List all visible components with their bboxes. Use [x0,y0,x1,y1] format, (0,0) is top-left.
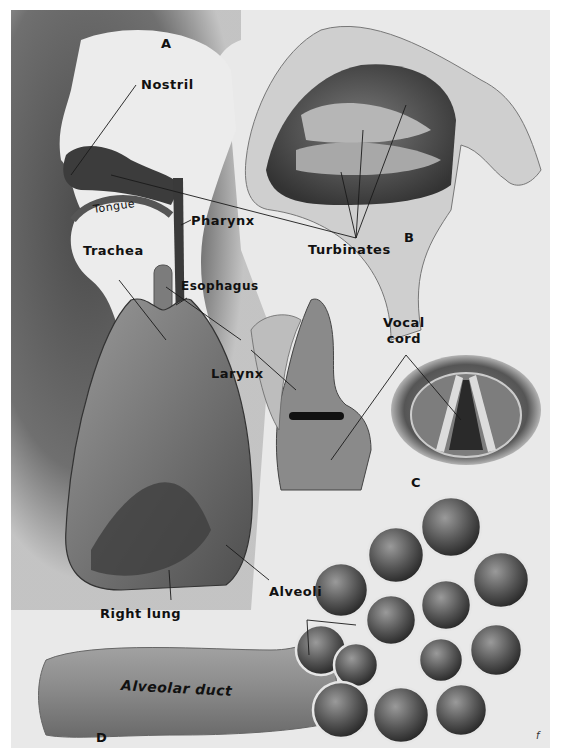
label-turbinates: Turbinates [308,242,391,257]
anatomy-plate: A B C D Nostril Tongue Pharynx Trachea E… [11,10,550,748]
label-vocal-cord-line2: cord [383,331,425,347]
label-vocal-cord-line1: Vocal [383,315,425,331]
panel-label-a: A [161,36,171,51]
vocal-cord-glottis-view [391,355,541,465]
label-larynx: Larynx [211,366,264,381]
label-esophagus: Esophagus [181,279,259,293]
label-vocal-cord: Vocal cord [383,315,425,347]
label-pharynx: Pharynx [191,213,255,228]
label-alveoli: Alveoli [269,584,322,599]
panel-c-larynx-section [251,299,371,490]
alveoli-cluster [296,497,529,743]
panel-label-d: D [96,730,107,745]
anatomy-illustration [11,10,550,748]
label-right-lung: Right lung [100,606,181,621]
label-trachea: Trachea [83,243,144,258]
label-nostril: Nostril [141,77,194,92]
panel-label-b: B [404,230,414,245]
panel-label-c: C [411,475,421,490]
artist-signature: f [536,730,540,741]
panel-b-nasal-cavity [245,26,541,340]
